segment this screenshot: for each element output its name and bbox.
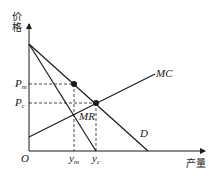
- d-label: D: [139, 127, 148, 139]
- x-axis-label: 产量: [186, 157, 206, 169]
- mr-label: MR: [78, 110, 95, 122]
- pc-label: Pc: [14, 96, 26, 110]
- mc-label: MC: [155, 67, 173, 79]
- y-axis-label-2: 格: [12, 21, 22, 33]
- diagram-canvas: 价 格 产量 O MC MR D Pm Pc ym yc: [0, 0, 223, 176]
- ym-label: ym: [68, 152, 79, 166]
- marginal-revenue-curve: [29, 44, 96, 151]
- origin-label: O: [21, 152, 29, 164]
- pm-label: Pm: [14, 77, 27, 91]
- demand-curve: [29, 44, 148, 151]
- yc-label: yc: [91, 152, 101, 166]
- marginal-cost-curve: [29, 74, 155, 137]
- y-axis-label-1: 价: [12, 11, 22, 22]
- monopoly-point: [71, 81, 77, 87]
- competitive-point: [93, 100, 99, 106]
